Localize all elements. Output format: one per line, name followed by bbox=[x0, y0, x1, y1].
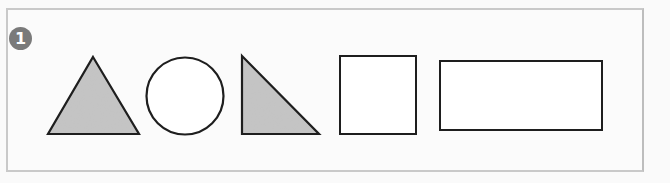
square-shape bbox=[340, 56, 416, 134]
shapes-row bbox=[0, 0, 670, 183]
triangle-shape bbox=[48, 57, 139, 134]
right-triangle-shape bbox=[242, 56, 319, 134]
circle-shape bbox=[147, 58, 224, 135]
rectangle-shape bbox=[440, 61, 602, 130]
